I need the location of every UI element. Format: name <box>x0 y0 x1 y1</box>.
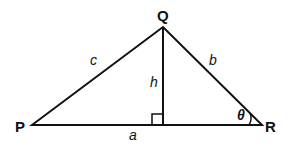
vertex-label-p: P <box>15 119 25 134</box>
vertex-label-q: Q <box>157 8 169 23</box>
side-label-c: c <box>90 53 97 67</box>
side-label-b: b <box>209 53 217 67</box>
triangle-diagram: Q P R c b h a θ <box>0 0 290 146</box>
angle-theta-arc <box>249 113 251 125</box>
right-angle-marker <box>152 114 163 125</box>
side-label-a: a <box>129 128 137 142</box>
triangle-pqr <box>32 27 262 125</box>
triangle-drawing <box>0 0 290 146</box>
vertex-label-r: R <box>265 119 276 134</box>
altitude-label-h: h <box>150 75 158 89</box>
angle-label-theta: θ <box>237 108 245 122</box>
